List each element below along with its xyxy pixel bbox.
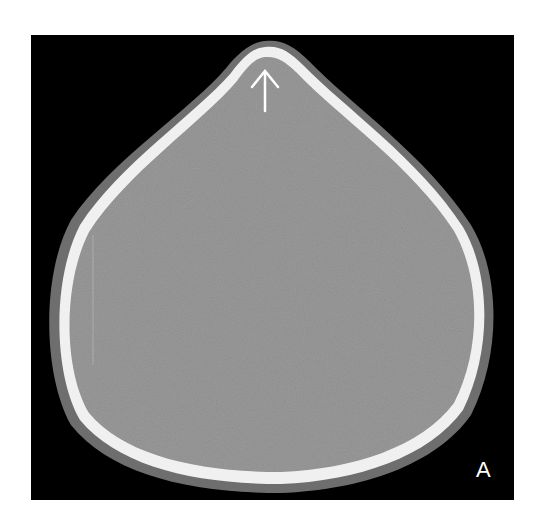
brain-parenchyma <box>70 57 475 472</box>
ct-skull-slice <box>31 35 514 500</box>
ct-image-frame: A <box>31 35 514 500</box>
panel-label: A <box>476 459 491 481</box>
